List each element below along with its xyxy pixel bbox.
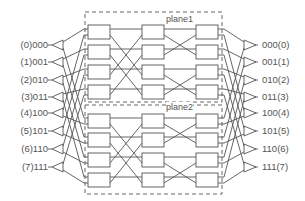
output-label-6: 110(6) [262, 144, 289, 154]
switch-element-box [88, 85, 110, 99]
input-label-1: (1)001 [2, 57, 48, 67]
splitter-icon [52, 40, 63, 50]
switch-element-box [142, 65, 164, 79]
switch-element-box [142, 173, 164, 187]
input-label-4: (4)100 [2, 108, 48, 118]
input-splitters [48, 40, 63, 172]
plane1-title: plane1 [166, 14, 193, 24]
splitter-icon [52, 108, 63, 118]
input-label-5: (5)101 [2, 126, 48, 136]
switch-element-box [142, 45, 164, 59]
combiner-icon [244, 108, 256, 118]
switch-element-box [88, 25, 110, 39]
output-label-0: 000(0) [262, 40, 289, 50]
splitter-icon [52, 57, 63, 67]
output-label-5: 101(5) [262, 126, 289, 136]
output-label-3: 011(3) [262, 92, 289, 102]
input-wire [63, 49, 88, 59]
input-label-0: (0)000 [2, 40, 48, 50]
input-wire [63, 134, 88, 143]
combiner-icon [244, 144, 256, 154]
input-wire [63, 152, 88, 163]
switch-element-box [142, 114, 164, 128]
switch-element-box [142, 133, 164, 147]
switch-element-box [196, 114, 218, 128]
output-label-2: 010(2) [262, 75, 289, 85]
output-label-7: 111(7) [262, 162, 288, 172]
combiner-icon [244, 162, 256, 172]
switch-element-box [142, 85, 164, 99]
splitter-icon [52, 144, 63, 154]
switch-element-box [196, 173, 218, 187]
output-label-4: 100(4) [262, 108, 289, 118]
switch-element-box [142, 153, 164, 167]
switch-element-box [142, 25, 164, 39]
combiner-icon [244, 126, 256, 136]
switch-elements [88, 25, 218, 187]
input-wire [63, 100, 88, 177]
switch-element-box [196, 153, 218, 167]
switch-element-box [196, 133, 218, 147]
switch-element-box [196, 45, 218, 59]
output-combiners [244, 40, 258, 172]
input-label-3: (3)011 [2, 92, 48, 102]
switch-element-box [196, 25, 218, 39]
input-wire [63, 69, 88, 77]
combiner-icon [244, 40, 256, 50]
switch-element-box [88, 173, 110, 187]
splitter-icon [52, 75, 63, 85]
plane2-title: plane2 [166, 102, 193, 112]
splitter-icon [52, 126, 63, 136]
combiner-icon [244, 92, 256, 102]
splitter-icon [52, 162, 63, 172]
combiner-icon [244, 75, 256, 85]
output-label-1: 001(1) [262, 57, 289, 67]
input-label-2: (2)010 [2, 75, 48, 85]
input-label-7: (7)111 [2, 162, 48, 172]
switch-element-box [88, 153, 110, 167]
switch-element-box [196, 85, 218, 99]
switch-element-box [88, 65, 110, 79]
combiner-icon [244, 57, 256, 67]
switch-element-box [88, 133, 110, 147]
splitter-icon [52, 92, 63, 102]
input-label-6: (6)110 [2, 144, 48, 154]
switch-element-box [88, 45, 110, 59]
switch-element-box [88, 114, 110, 128]
switch-element-box [196, 65, 218, 79]
